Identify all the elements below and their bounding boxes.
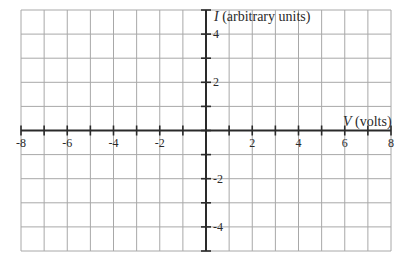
iv-graph: -8-6-4-2246842-2-4 I (arbitrary units) V… [0, 0, 406, 270]
x-tick-label: -4 [109, 136, 119, 150]
x-axis-unit: (volts) [352, 114, 392, 130]
x-tick-label: 6 [342, 136, 348, 150]
x-tick-label: 4 [296, 136, 302, 150]
x-tick-label: -6 [62, 136, 72, 150]
y-axis-title: I (arbitrary units) [213, 9, 311, 25]
x-tick-label: 8 [388, 136, 394, 150]
x-tick-label: 2 [249, 136, 255, 150]
y-axis-unit: (arbitrary units) [219, 9, 311, 25]
x-axis-title: V (volts) [343, 114, 392, 130]
x-tick-label: -8 [16, 136, 26, 150]
y-tick-label: 4 [213, 27, 219, 41]
x-tick-label: -2 [155, 136, 165, 150]
y-tick-label: 2 [213, 75, 219, 89]
y-tick-label: -4 [213, 220, 223, 234]
y-tick-label: -2 [213, 172, 223, 186]
